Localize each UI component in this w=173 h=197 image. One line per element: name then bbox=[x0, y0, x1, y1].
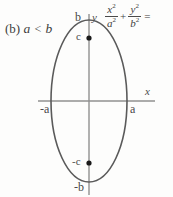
caption-var-a: a bbox=[23, 21, 30, 36]
label-x-axis: x bbox=[145, 86, 150, 97]
fraction-numerator-x: x2 bbox=[105, 3, 117, 16]
figure-caption: (b) a < b bbox=[5, 22, 52, 36]
fraction-y-over-b: y2 b2 bbox=[128, 3, 141, 29]
fraction-x-over-a: x2 a2 bbox=[105, 3, 118, 29]
exponent-num1: 2 bbox=[112, 2, 116, 10]
ellipse-equation: x2 a2 + y2 b2 = bbox=[104, 3, 150, 29]
label-right-vertex: a bbox=[130, 103, 135, 115]
label-lower-focus: -c bbox=[72, 156, 81, 167]
equation-operator: + bbox=[119, 10, 127, 22]
fraction-denominator-b: b2 bbox=[128, 17, 141, 30]
caption-var-b: b bbox=[45, 21, 52, 36]
fraction-numerator-y: y2 bbox=[129, 3, 141, 16]
upper-focus-point bbox=[86, 35, 91, 40]
exponent-num2: 2 bbox=[135, 2, 139, 10]
equals-sign: = bbox=[144, 10, 150, 22]
fraction-denominator-a: a2 bbox=[105, 17, 118, 30]
ellipse-figure: (b) a < b x2 a2 + y2 b2 = b y c -c -b -a… bbox=[0, 0, 173, 197]
lower-focus-point bbox=[86, 160, 91, 165]
caption-part-label: (b) bbox=[5, 21, 20, 36]
label-top-vertex: b bbox=[75, 11, 81, 23]
caption-relation: < bbox=[33, 22, 42, 36]
label-upper-focus: c bbox=[76, 31, 81, 42]
label-left-vertex: -a bbox=[40, 103, 49, 115]
exponent-den2: 2 bbox=[136, 16, 140, 24]
label-bottom-vertex: -b bbox=[74, 181, 84, 193]
label-y-axis: y bbox=[92, 12, 97, 23]
exponent-den1: 2 bbox=[113, 16, 117, 24]
